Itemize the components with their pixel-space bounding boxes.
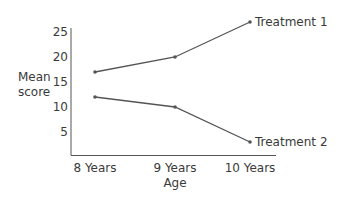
- x-tick-label: 9 Years: [153, 161, 196, 175]
- line-chart: 510152025 8 Years9 Years10 Years Treatme…: [0, 0, 339, 198]
- x-axis: 8 Years9 Years10 Years: [71, 156, 276, 176]
- y-tick-label: 15: [53, 75, 68, 89]
- y-tick-label: 5: [60, 125, 68, 139]
- x-tick-label: 10 Years: [225, 161, 276, 175]
- data-point: [93, 70, 97, 74]
- series-label-1: Treatment 1: [254, 15, 328, 29]
- y-axis-label-line1: Mean: [18, 70, 51, 84]
- y-axis: 510152025: [53, 25, 71, 156]
- x-axis-label: Age: [163, 176, 186, 190]
- series-label-2: Treatment 2: [254, 135, 328, 149]
- data-point: [173, 55, 177, 59]
- y-tick-label: 10: [53, 100, 68, 114]
- data-point: [173, 105, 177, 109]
- data-point: [248, 20, 252, 24]
- series-line-1: [95, 22, 250, 72]
- data-point: [248, 140, 252, 144]
- data-point: [93, 95, 97, 99]
- series-line-2: [95, 97, 250, 142]
- y-tick-label: 20: [53, 50, 68, 64]
- x-tick-label: 8 Years: [73, 161, 116, 175]
- series-group: Treatment 1Treatment 2: [93, 15, 327, 149]
- y-tick-label: 25: [53, 25, 68, 39]
- y-axis-label-line2: score: [18, 85, 50, 99]
